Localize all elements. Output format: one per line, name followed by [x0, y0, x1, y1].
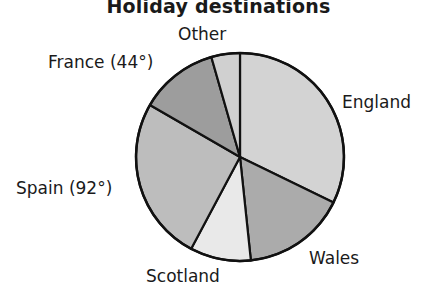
label-scotland: Scotland — [146, 266, 220, 286]
label-spain: Spain (92°) — [16, 178, 112, 198]
label-other: Other — [178, 24, 226, 44]
label-england: England — [342, 92, 411, 112]
label-wales: Wales — [309, 248, 359, 268]
label-france: France (44°) — [48, 52, 153, 72]
